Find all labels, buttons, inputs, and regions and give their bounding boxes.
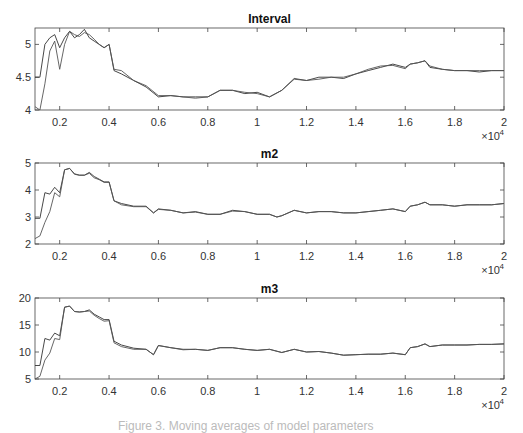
subplot-title: Interval xyxy=(248,12,291,26)
x-tick-label: 1.6 xyxy=(398,116,413,128)
x-tick-label: 0.4 xyxy=(101,385,116,397)
y-tick-label: 3 xyxy=(25,211,31,223)
line-series1 xyxy=(35,29,504,97)
y-tick-label: 4 xyxy=(25,184,31,196)
x-tick-label: 1 xyxy=(254,250,260,262)
line-series1 xyxy=(35,168,504,218)
x-tick-label: 0.4 xyxy=(101,116,116,128)
y-tick-label: 5 xyxy=(25,38,31,50)
subplot-m3: m30.20.40.60.811.21.41.61.825101520×104 xyxy=(19,282,507,411)
y-tick-label: 2 xyxy=(25,238,31,250)
x-tick-label: 0.6 xyxy=(151,250,166,262)
x-tick-label: 1.8 xyxy=(447,250,462,262)
subplot-interval: Interval0.20.40.60.811.21.41.61.8244.55×… xyxy=(16,12,507,142)
x-tick-label: 0.8 xyxy=(200,385,215,397)
x-tick-label: 1.2 xyxy=(299,116,314,128)
y-tick-label: 10 xyxy=(19,346,31,358)
x-tick-label: 0.2 xyxy=(52,116,67,128)
x-tick-label: 0.2 xyxy=(52,385,67,397)
y-tick-label: 5 xyxy=(25,373,31,385)
x-tick-label: 1.2 xyxy=(299,385,314,397)
x-tick-label: 0.2 xyxy=(52,250,67,262)
x-tick-label: 1.6 xyxy=(398,385,413,397)
axes-frame xyxy=(35,298,504,379)
subplot-title: m2 xyxy=(261,147,279,161)
line-series2 xyxy=(35,168,504,238)
subplot-m2: m20.20.40.60.811.21.41.61.822345×104 xyxy=(25,147,507,276)
x-tick-label: 0.8 xyxy=(200,250,215,262)
x-multiplier: ×10 xyxy=(481,264,500,276)
svg-text:4: 4 xyxy=(500,397,505,406)
x-tick-label: 1.4 xyxy=(348,250,363,262)
x-tick-label: 1.8 xyxy=(447,385,462,397)
x-multiplier: ×10 xyxy=(481,399,500,411)
figure-caption: Figure 3. Moving averages of model param… xyxy=(118,419,418,433)
y-tick-label: 20 xyxy=(19,292,31,304)
axes-frame xyxy=(35,163,504,244)
x-tick-label: 1.4 xyxy=(348,116,363,128)
x-tick-label: 2 xyxy=(501,116,507,128)
x-tick-label: 1.2 xyxy=(299,250,314,262)
line-series2 xyxy=(35,306,504,379)
x-tick-label: 0.4 xyxy=(101,250,116,262)
line-series2 xyxy=(35,31,504,110)
x-tick-label: 1.8 xyxy=(447,116,462,128)
y-tick-label: 5 xyxy=(25,157,31,169)
x-tick-label: 1 xyxy=(254,385,260,397)
x-tick-label: 2 xyxy=(501,385,507,397)
y-tick-label: 15 xyxy=(19,319,31,331)
subplot-title: m3 xyxy=(261,282,279,296)
y-tick-label: 4.5 xyxy=(16,71,31,83)
x-tick-label: 0.8 xyxy=(200,116,215,128)
y-tick-label: 4 xyxy=(25,104,31,116)
line-series1 xyxy=(35,306,504,365)
x-tick-label: 0.6 xyxy=(151,116,166,128)
svg-text:4: 4 xyxy=(500,128,505,137)
axes-frame xyxy=(35,28,504,110)
svg-text:4: 4 xyxy=(500,262,505,271)
x-tick-label: 1.6 xyxy=(398,250,413,262)
x-tick-label: 0.6 xyxy=(151,385,166,397)
x-tick-label: 2 xyxy=(501,250,507,262)
x-tick-label: 1.4 xyxy=(348,385,363,397)
x-multiplier: ×10 xyxy=(481,130,500,142)
x-tick-label: 1 xyxy=(254,116,260,128)
